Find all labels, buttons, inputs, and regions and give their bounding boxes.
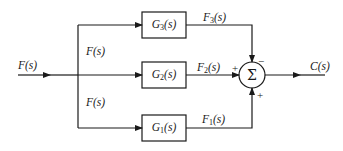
- branch-label-lower: F(s): [86, 97, 105, 109]
- block-g1-label: G1(s): [142, 122, 186, 135]
- block-g2-label: G2(s): [142, 69, 186, 82]
- sign-top-minus: −: [258, 56, 264, 67]
- f3-line: [186, 25, 252, 62]
- block-diagram: F(s) F(s) F(s) G3(s) G2(s) G1(s) F3(s) F…: [0, 0, 343, 151]
- sigma-symbol: Σ: [239, 68, 265, 82]
- signal-f1-label: F1(s): [202, 114, 225, 127]
- signal-f2-label: F2(s): [197, 62, 220, 75]
- branch-label-upper: F(s): [86, 46, 105, 58]
- input-label: F(s): [18, 60, 37, 72]
- sign-bottom-plus: +: [257, 90, 263, 101]
- sign-left-plus: +: [232, 63, 238, 74]
- signal-f3-label: F3(s): [203, 12, 226, 25]
- block-g3-label: G3(s): [142, 19, 186, 32]
- output-label: C(s): [310, 61, 330, 73]
